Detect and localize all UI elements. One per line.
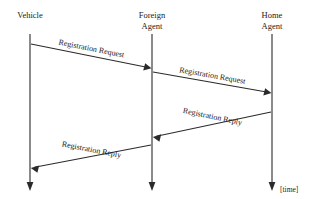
participant-label-foreign-agent-line2: Agent	[142, 21, 163, 31]
message-arrowhead-3	[153, 134, 161, 141]
time-axis-annotation: [time]	[280, 185, 298, 194]
participant-label-home-agent-line2: Agent	[262, 21, 283, 31]
message-registration-request-foreign-agent-to-home-agent: Registration Request	[153, 65, 272, 95]
participant-label-foreign-agent-line1: Foreign	[139, 10, 166, 20]
message-arrowhead-2	[263, 88, 271, 95]
lifeline-arrowhead-home-agent	[269, 182, 276, 191]
message-arrowhead-4	[31, 165, 39, 172]
message-arrowhead-1	[143, 63, 151, 70]
lifeline-foreign-agent	[149, 34, 156, 191]
participant-label-vehicle: Vehicle	[17, 10, 43, 20]
lifeline-arrowhead-vehicle	[27, 182, 34, 191]
participant-label-home-agent-line1: Home	[262, 10, 283, 20]
message-registration-reply-home-agent-to-foreign-agent: Registration Reply	[153, 106, 271, 142]
message-registration-reply-foreign-agent-to-vehicle: Registration Reply	[31, 139, 151, 172]
sequence-diagram: Vehicle Foreign Agent Home Agent Registr…	[0, 0, 319, 199]
message-registration-request-vehicle-to-foreign-agent: Registration Request	[31, 38, 152, 71]
lifeline-arrowhead-foreign-agent	[149, 182, 156, 191]
lifeline-vehicle	[27, 34, 34, 191]
